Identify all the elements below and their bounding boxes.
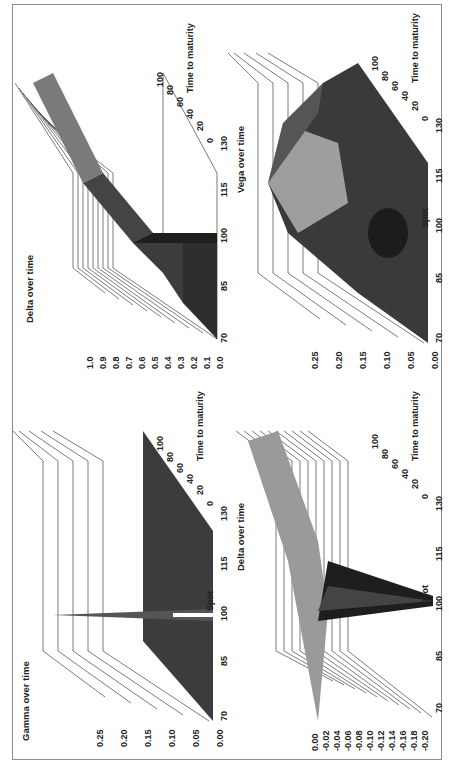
svg-text:20: 20 [195, 485, 205, 495]
svg-text:60: 60 [390, 81, 400, 91]
svg-text:0.0: 0.0 [215, 356, 225, 369]
svg-text:0.9: 0.9 [98, 356, 108, 369]
gamma-plot: Gamma over time 0.00 0.05 0.10 0.15 0.20 [13, 383, 228, 761]
svg-text:0.00: 0.00 [430, 351, 440, 369]
svg-text:1.0: 1.0 [85, 356, 95, 369]
svg-text:0.2: 0.2 [189, 356, 199, 369]
z-tick-labels: 0.0 0.1 0.2 0.3 0.4 0.5 0.6 0.7 0.8 0.9 … [85, 356, 225, 369]
y-axis-label: Time to maturity [410, 391, 420, 461]
svg-text:0.10: 0.10 [382, 351, 392, 369]
x-tick-labels: 70 85 100 115 130 [219, 136, 228, 343]
chart-title: Delta over time [24, 255, 35, 323]
svg-text:85: 85 [219, 656, 228, 666]
chart-gamma: Gamma over time 0.00 0.05 0.10 0.15 0.20 [13, 383, 228, 761]
svg-text:40: 40 [400, 91, 410, 101]
svg-text:100: 100 [155, 72, 165, 87]
svg-text:80: 80 [380, 71, 390, 81]
svg-text:-0.10: -0.10 [365, 730, 375, 751]
svg-text:130: 130 [219, 136, 228, 151]
svg-text:-0.12: -0.12 [376, 730, 386, 751]
svg-text:70: 70 [219, 333, 228, 343]
svg-text:0.20: 0.20 [119, 729, 129, 747]
y-tick-labels: 0 20 40 60 80 100 [370, 434, 430, 499]
spike-gap [173, 613, 213, 617]
svg-text:0.7: 0.7 [124, 356, 134, 369]
x-axis-label: Spot [420, 208, 430, 228]
svg-text:115: 115 [219, 182, 228, 197]
delta-call-plot: Delta over time [13, 5, 228, 383]
svg-text:60: 60 [390, 459, 400, 469]
vega-plot: Vega over time 0.00 0.05 0.10 0.15 [228, 5, 443, 383]
svg-text:115: 115 [434, 546, 443, 561]
svg-text:70: 70 [219, 711, 228, 721]
surface-high-mid [83, 173, 153, 243]
svg-text:60: 60 [175, 463, 185, 473]
y-axis-label: Time to maturity [185, 23, 195, 93]
svg-text:-0.16: -0.16 [398, 730, 408, 751]
svg-text:85: 85 [219, 281, 228, 291]
svg-text:130: 130 [219, 506, 228, 521]
svg-text:130: 130 [434, 118, 443, 133]
svg-text:0.5: 0.5 [150, 356, 160, 369]
svg-text:70: 70 [434, 703, 443, 713]
x-axis-label: Spot [420, 585, 430, 605]
z-tick-labels: 0.00 -0.02 -0.04 -0.06 -0.08 -0.10 -0.12… [310, 730, 430, 751]
svg-text:0.6: 0.6 [137, 356, 147, 369]
svg-text:100: 100 [370, 56, 380, 71]
svg-text:70: 70 [434, 333, 443, 343]
svg-text:20: 20 [195, 121, 205, 131]
svg-text:100: 100 [219, 228, 228, 243]
svg-text:130: 130 [434, 496, 443, 511]
svg-text:-0.04: -0.04 [332, 730, 342, 751]
svg-text:0.05: 0.05 [191, 729, 201, 747]
chart-delta-put: Delta over time 0.00 [228, 383, 443, 761]
y-axis-label: Time to maturity [195, 391, 205, 461]
svg-text:0.8: 0.8 [111, 356, 121, 369]
svg-text:0.25: 0.25 [95, 729, 105, 747]
svg-text:100: 100 [370, 434, 380, 449]
svg-text:80: 80 [165, 85, 175, 95]
surface-base [143, 431, 213, 721]
delta-put-plot: Delta over time 0.00 [228, 383, 443, 761]
svg-text:0: 0 [205, 138, 215, 143]
svg-text:20: 20 [410, 479, 420, 489]
svg-text:-0.18: -0.18 [409, 730, 419, 751]
x-axis-label: Spot [205, 591, 215, 611]
svg-text:0: 0 [205, 501, 215, 506]
chart-title: Delta over time [235, 503, 246, 571]
svg-text:-0.08: -0.08 [354, 730, 364, 751]
chart-title: Gamma over time [20, 661, 31, 741]
svg-text:-0.14: -0.14 [387, 730, 397, 751]
svg-text:100: 100 [434, 596, 443, 611]
svg-text:0.10: 0.10 [167, 729, 177, 747]
svg-text:115: 115 [219, 556, 228, 571]
x-tick-labels: 70 85 100 115 130 [434, 118, 443, 343]
y-axis-label: Time to maturity [410, 13, 420, 83]
svg-text:40: 40 [400, 469, 410, 479]
chart-delta-call: Delta over time [13, 5, 228, 383]
figure-frame: Delta over time [12, 4, 442, 760]
surface-low [183, 243, 217, 339]
svg-text:0.15: 0.15 [143, 729, 153, 747]
chart-title: Vega over time [235, 126, 246, 193]
z-tick-labels: 0.00 0.05 0.10 0.15 0.20 0.25 [310, 351, 440, 369]
surface-shadow [368, 208, 408, 258]
svg-text:0.1: 0.1 [202, 356, 212, 369]
svg-text:100: 100 [155, 436, 165, 451]
svg-text:85: 85 [434, 273, 443, 283]
svg-text:0: 0 [420, 116, 430, 121]
svg-text:85: 85 [434, 651, 443, 661]
chart-vega: Vega over time 0.00 0.05 0.10 0.15 [228, 5, 443, 383]
svg-text:0.20: 0.20 [334, 351, 344, 369]
svg-text:0.05: 0.05 [406, 351, 416, 369]
svg-text:0.4: 0.4 [163, 356, 173, 369]
x-tick-labels: 70 85 100 115 130 [219, 506, 228, 721]
svg-text:115: 115 [434, 168, 443, 183]
svg-text:80: 80 [380, 449, 390, 459]
svg-text:100: 100 [219, 606, 228, 621]
svg-text:-0.20: -0.20 [420, 730, 430, 751]
svg-text:80: 80 [165, 452, 175, 462]
svg-text:100: 100 [434, 218, 443, 233]
svg-text:-0.06: -0.06 [343, 730, 353, 751]
svg-text:20: 20 [410, 101, 420, 111]
